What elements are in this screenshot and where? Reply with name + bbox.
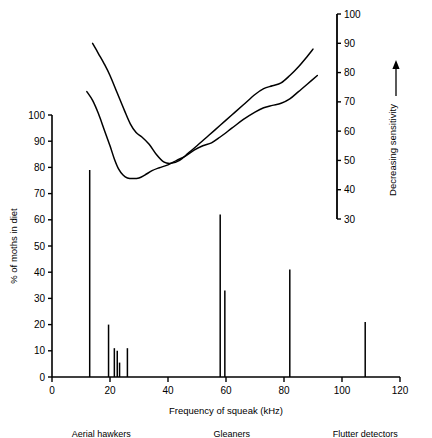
y2-axis-tick-label: 100: [344, 9, 361, 20]
decreasing-sensitivity-arrowhead: [392, 60, 399, 69]
x-axis-tick-label: 80: [278, 385, 290, 396]
audiogram-lower-curve: [87, 76, 318, 179]
x-axis-tick-label: 0: [49, 385, 55, 396]
y2-axis-label: Decreasing sensitivity: [387, 104, 398, 196]
figure-container: 0102030405060708090100% of moths in diet…: [0, 0, 432, 438]
y-axis-tick-label: 0: [39, 372, 45, 383]
category-label: Aerial hawkers: [72, 429, 132, 438]
x-axis-tick-label: 60: [220, 385, 232, 396]
y-axis-tick-label: 10: [34, 345, 46, 356]
x-axis-tick-label: 20: [104, 385, 116, 396]
bat-echolocation-chart: 0102030405060708090100% of moths in diet…: [0, 0, 432, 438]
x-axis-label: Frequency of squeak (kHz): [169, 405, 283, 416]
y-axis-label: % of moths in diet: [8, 208, 19, 284]
x-axis-tick-label: 100: [334, 385, 351, 396]
y2-axis-tick-label: 80: [344, 67, 356, 78]
y2-axis-tick-label: 50: [344, 155, 356, 166]
category-label: Gleaners: [214, 429, 251, 438]
category-label: Flutter detectors: [333, 429, 399, 438]
x-axis-tick-label: 40: [162, 385, 174, 396]
y2-axis-tick-label: 40: [344, 184, 356, 195]
y-axis-tick-label: 70: [34, 188, 46, 199]
y-axis-tick-label: 30: [34, 293, 46, 304]
y2-axis-tick-label: 70: [344, 96, 356, 107]
y-axis-tick-label: 80: [34, 162, 46, 173]
y-axis-tick-label: 20: [34, 319, 46, 330]
x-axis-tick-label: 120: [392, 385, 409, 396]
y2-axis-tick-label: 30: [344, 214, 356, 225]
y2-axis-tick-label: 90: [344, 38, 356, 49]
y-axis-tick-label: 90: [34, 136, 46, 147]
y-axis-tick-label: 60: [34, 214, 46, 225]
y-axis-tick-label: 40: [34, 267, 46, 278]
y-axis-tick-label: 50: [34, 241, 46, 252]
y-axis-tick-label: 100: [28, 110, 45, 121]
y2-axis-tick-label: 60: [344, 126, 356, 137]
